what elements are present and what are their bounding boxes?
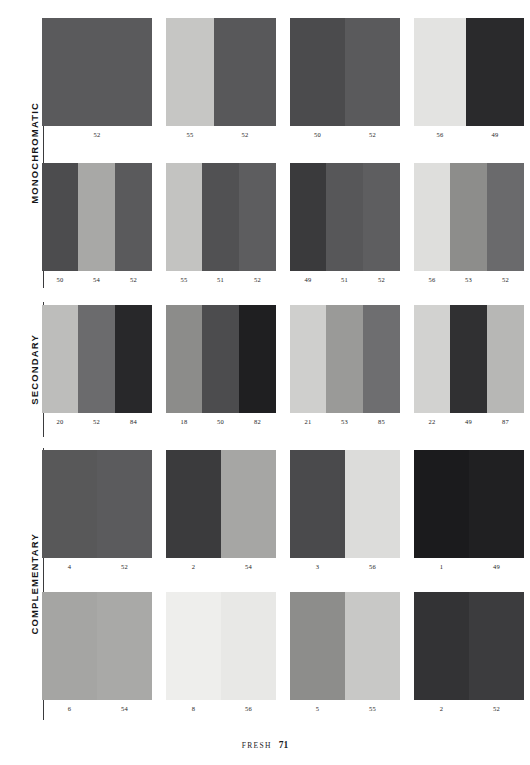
color-code-label: 82 — [239, 416, 276, 431]
palette-card[interactable]: 205284 — [42, 305, 152, 431]
color-band[interactable] — [42, 163, 78, 271]
color-band[interactable] — [202, 305, 239, 413]
palette-card[interactable]: 185082 — [166, 305, 276, 431]
color-code-label: 52 — [345, 129, 400, 144]
footer-section-name: FRESH — [242, 741, 272, 750]
color-band[interactable] — [202, 163, 239, 271]
color-band[interactable] — [221, 592, 276, 700]
color-band-group — [42, 450, 152, 558]
color-band-group — [166, 592, 276, 700]
color-band[interactable] — [290, 450, 345, 558]
palette-card[interactable]: 5052 — [290, 18, 400, 144]
color-code-label: 54 — [97, 703, 152, 718]
color-band[interactable] — [326, 305, 363, 413]
palette-card[interactable]: 224987 — [414, 305, 524, 431]
color-band[interactable] — [290, 305, 326, 413]
palette-card[interactable]: 5649 — [414, 18, 524, 144]
color-band[interactable] — [239, 305, 276, 413]
color-code-label: 3 — [290, 561, 345, 576]
palette-card[interactable]: 856 — [166, 592, 276, 718]
color-band-group — [42, 592, 152, 700]
color-band[interactable] — [290, 163, 326, 271]
color-code-label: 4 — [42, 561, 97, 576]
color-code-label: 52 — [239, 274, 276, 289]
section-label-monochromatic: MONOCHROMATIC — [0, 18, 44, 288]
color-code-label: 22 — [414, 416, 450, 431]
color-code-group: 52 — [42, 129, 152, 144]
color-band[interactable] — [166, 592, 221, 700]
color-band[interactable] — [345, 18, 400, 126]
section-label-text: MONOCHROMATIC — [27, 102, 40, 204]
color-band[interactable] — [166, 305, 202, 413]
color-code-label: 49 — [469, 561, 524, 576]
color-band[interactable] — [42, 18, 152, 126]
color-band[interactable] — [469, 450, 524, 558]
color-code-group: 565352 — [414, 274, 524, 289]
palette-card[interactable]: 52 — [42, 18, 152, 144]
swatch-row: 452254356149 — [42, 450, 526, 576]
color-band[interactable] — [414, 18, 466, 126]
color-code-label: 52 — [214, 129, 276, 144]
color-band[interactable] — [487, 305, 524, 413]
color-band[interactable] — [345, 592, 400, 700]
color-code-group: 5552 — [166, 129, 276, 144]
color-band[interactable] — [166, 163, 202, 271]
color-code-group: 252 — [414, 703, 524, 718]
color-band[interactable] — [290, 592, 345, 700]
color-band[interactable] — [166, 18, 214, 126]
palette-card[interactable]: 452 — [42, 450, 152, 576]
color-band[interactable] — [363, 305, 400, 413]
palette-card[interactable]: 254 — [166, 450, 276, 576]
color-band[interactable] — [214, 18, 276, 126]
palette-card[interactable]: 5552 — [166, 18, 276, 144]
color-band[interactable] — [115, 163, 152, 271]
color-band[interactable] — [42, 305, 78, 413]
color-code-label: 56 — [414, 129, 466, 144]
color-code-label: 56 — [221, 703, 276, 718]
color-band-group — [42, 18, 152, 126]
color-band[interactable] — [42, 592, 97, 700]
color-band[interactable] — [221, 450, 276, 558]
color-code-label: 52 — [469, 703, 524, 718]
color-band-group — [166, 305, 276, 413]
palette-card[interactable]: 565352 — [414, 163, 524, 289]
color-band[interactable] — [363, 163, 400, 271]
footer-page-number: 71 — [279, 740, 289, 750]
color-band-group — [290, 450, 400, 558]
color-band[interactable] — [42, 450, 97, 558]
palette-card[interactable]: 555 — [290, 592, 400, 718]
color-band[interactable] — [414, 163, 450, 271]
color-band[interactable] — [414, 450, 469, 558]
color-band[interactable] — [469, 592, 524, 700]
color-code-label: 6 — [42, 703, 97, 718]
color-band[interactable] — [97, 592, 152, 700]
color-code-group: 254 — [166, 561, 276, 576]
palette-card[interactable]: 495152 — [290, 163, 400, 289]
palette-card[interactable]: 555152 — [166, 163, 276, 289]
color-code-label: 49 — [466, 129, 524, 144]
palette-card[interactable]: 215385 — [290, 305, 400, 431]
palette-card[interactable]: 252 — [414, 592, 524, 718]
color-band[interactable] — [326, 163, 363, 271]
color-band-group — [414, 450, 524, 558]
color-code-label: 51 — [326, 274, 363, 289]
palette-card[interactable]: 149 — [414, 450, 524, 576]
palette-card[interactable]: 356 — [290, 450, 400, 576]
color-band[interactable] — [345, 450, 400, 558]
color-band[interactable] — [78, 305, 115, 413]
color-band[interactable] — [414, 305, 450, 413]
color-code-label: 52 — [78, 416, 115, 431]
color-band[interactable] — [414, 592, 469, 700]
color-band[interactable] — [466, 18, 524, 126]
palette-card[interactable]: 505452 — [42, 163, 152, 289]
color-band[interactable] — [166, 450, 221, 558]
color-band[interactable] — [487, 163, 524, 271]
color-band[interactable] — [97, 450, 152, 558]
color-band[interactable] — [450, 305, 487, 413]
color-band[interactable] — [290, 18, 345, 126]
palette-card[interactable]: 654 — [42, 592, 152, 718]
color-band[interactable] — [450, 163, 487, 271]
color-band[interactable] — [115, 305, 152, 413]
color-band[interactable] — [78, 163, 115, 271]
color-band[interactable] — [239, 163, 276, 271]
